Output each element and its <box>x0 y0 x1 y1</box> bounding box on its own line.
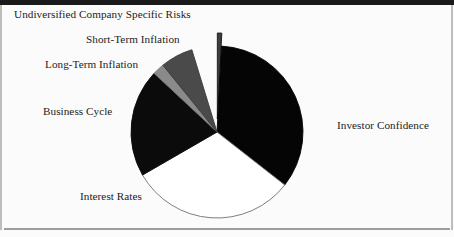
slice-label-long-term-inflation: Long-Term Inflation <box>45 58 138 70</box>
pie-chart-figure: Undiversified Company Specific Risks Sho… <box>0 0 454 237</box>
slice-label-short-term-inflation: Short-Term Inflation <box>86 33 180 45</box>
pie-slice-group <box>131 33 303 218</box>
slice-label-undiversified-company-specific-risks: Undiversified Company Specific Risks <box>14 8 191 20</box>
slice-label-investor-confidence: Investor Confidence <box>337 119 429 131</box>
slice-label-interest-rates: Interest Rates <box>80 190 142 202</box>
slice-label-business-cycle: Business Cycle <box>43 105 112 117</box>
